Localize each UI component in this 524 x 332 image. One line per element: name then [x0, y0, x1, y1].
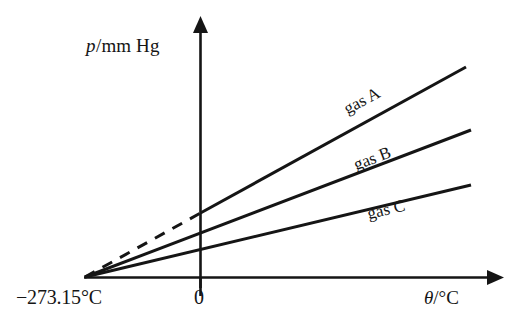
plot-area	[0, 0, 524, 332]
y-axis	[193, 16, 208, 296]
gas-b-line	[85, 130, 471, 277]
x-axis-arrowhead	[487, 270, 504, 285]
gas-c-line	[85, 185, 471, 277]
y-axis-symbol: p	[86, 35, 96, 56]
x-axis	[84, 270, 504, 285]
x-axis-symbol: θ	[424, 287, 433, 308]
gas-a-extrapolation-dashed	[85, 213, 201, 277]
x-axis-label: θ/°C	[424, 288, 459, 307]
x-axis-units: /°C	[433, 287, 459, 308]
gas-pressure-temperature-chart: p/mm Hg θ/°C −273.15°C 0 gas A gas B gas…	[0, 0, 524, 332]
y-axis-units: /mm Hg	[96, 35, 159, 56]
origin-tick-label: 0	[194, 287, 204, 307]
y-axis-arrowhead	[193, 16, 208, 33]
y-axis-label: p/mm Hg	[86, 36, 160, 55]
gas-a-line	[201, 67, 467, 213]
absolute-zero-tick-label: −273.15°C	[16, 287, 102, 307]
